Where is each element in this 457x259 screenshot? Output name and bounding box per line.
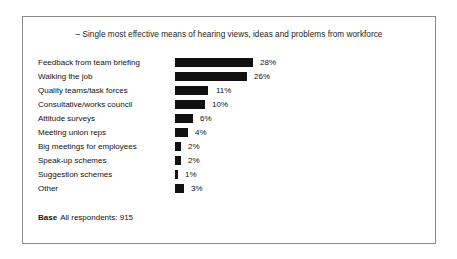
- bar-chart-plot: Feedback from team briefing 28% Walking …: [38, 56, 427, 196]
- bar-row: Feedback from team briefing 28%: [38, 56, 427, 70]
- bar-row: Big meetings for employees 2%: [38, 140, 427, 154]
- bar-category-label: Feedback from team briefing: [38, 58, 160, 68]
- bar-category-label: Other: [38, 184, 160, 194]
- bar-track: 11%: [175, 86, 427, 95]
- bar-fill: [175, 72, 247, 81]
- bar-value-label: 2%: [188, 155, 200, 166]
- bar-value-label: 26%: [254, 71, 270, 82]
- bar-fill: [175, 142, 181, 151]
- bar-track: 28%: [175, 58, 427, 67]
- bar-fill: [175, 184, 184, 193]
- bar-row: Meeting union reps 4%: [38, 126, 427, 140]
- bar-value-label: 11%: [216, 85, 231, 96]
- bar-fill: [175, 58, 253, 67]
- bar-row: Speak-up schemes 2%: [38, 154, 427, 168]
- base-keyword: Base: [38, 213, 57, 222]
- bar-fill: [175, 156, 181, 165]
- bar-row: Consultative/works council 10%: [38, 98, 427, 112]
- bar-track: 3%: [175, 184, 427, 193]
- bar-value-label: 10%: [212, 99, 228, 110]
- bar-track: 1%: [175, 170, 427, 179]
- bar-value-label: 4%: [195, 127, 207, 138]
- chart-title: – Single most effective means of hearing…: [23, 30, 435, 39]
- bar-category-label: Quality teams/task forces: [38, 86, 160, 96]
- bar-fill: [175, 114, 193, 123]
- bar-row: Suggestion schemes 1%: [38, 168, 427, 182]
- bar-value-label: 2%: [188, 141, 200, 152]
- bar-category-label: Speak-up schemes: [38, 156, 160, 166]
- bar-fill: [175, 170, 178, 179]
- bar-category-label: Consultative/works council: [38, 100, 160, 110]
- bar-row: Attitude surveys 6%: [38, 112, 427, 126]
- bar-category-label: Attitude surveys: [38, 114, 160, 124]
- base-annotation: BaseAll respondents: 915: [38, 213, 133, 222]
- bar-track: 26%: [175, 72, 427, 81]
- bar-fill: [175, 100, 205, 109]
- bar-category-label: Meeting union reps: [38, 128, 160, 138]
- bar-row: Other 3%: [38, 182, 427, 196]
- bar-category-label: Big meetings for employees: [38, 142, 160, 152]
- bar-value-label: 6%: [200, 113, 212, 124]
- bar-row: Quality teams/task forces 11%: [38, 84, 427, 98]
- bar-value-label: 28%: [260, 57, 276, 68]
- bar-fill: [175, 86, 208, 95]
- bar-row: Walking the job 26%: [38, 70, 427, 84]
- bar-category-label: Walking the job: [38, 72, 160, 82]
- bar-value-label: 1%: [185, 169, 197, 180]
- base-text: All respondents: 915: [60, 213, 133, 222]
- bar-track: 4%: [175, 128, 427, 137]
- bar-track: 2%: [175, 156, 427, 165]
- bar-track: 6%: [175, 114, 427, 123]
- bar-value-label: 3%: [191, 183, 203, 194]
- bar-fill: [175, 128, 188, 137]
- chart-frame: – Single most effective means of hearing…: [22, 16, 436, 244]
- bar-track: 2%: [175, 142, 427, 151]
- bar-track: 10%: [175, 100, 427, 109]
- bar-category-label: Suggestion schemes: [38, 170, 160, 180]
